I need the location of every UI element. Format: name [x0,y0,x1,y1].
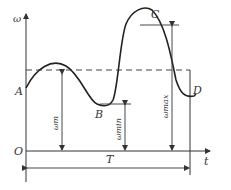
origin-label: O [14,145,23,158]
period-label: T [106,153,115,166]
omega-m-label: ωm [51,115,60,130]
point-d-label: D [192,84,202,97]
omega-min-label: ωmin [114,118,123,140]
x-axis-label: t [204,155,209,168]
omega-max-label: ωmax [161,94,170,118]
point-c-label: C [151,8,160,21]
velocity-curve [26,8,196,106]
point-b-label: B [94,108,103,121]
y-axis-label: ω [13,13,21,24]
point-a-label: A [14,85,23,98]
velocity-diagram: ω t O A B C D T ωm ωmin ωmax [0,0,231,190]
